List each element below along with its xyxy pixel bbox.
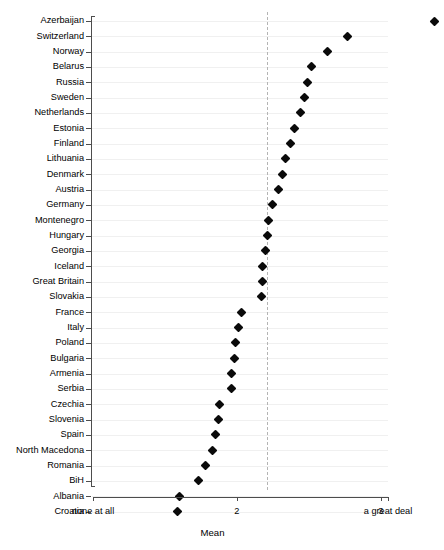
y-axis-label: Hungary (49, 231, 84, 240)
grid-line (92, 450, 388, 451)
x-axis-tick (388, 497, 389, 501)
y-axis-cap-bottom (91, 486, 95, 487)
y-axis-tick (86, 282, 91, 283)
grid-line (92, 466, 388, 467)
y-axis-label: Belarus (53, 62, 84, 71)
x-axis-label: 2 (177, 506, 297, 517)
y-axis-label: Slovenia (49, 415, 84, 424)
y-axis-label: Montenegro (35, 216, 84, 225)
y-axis-label: Sweden (51, 93, 84, 102)
y-axis-tick (86, 128, 91, 129)
y-axis-tick (86, 21, 91, 22)
y-axis-label: France (55, 308, 84, 317)
grid-line (92, 190, 388, 191)
y-axis-tick (86, 159, 91, 160)
y-axis-label: Albania (53, 492, 84, 501)
y-axis-tick (86, 67, 91, 68)
y-axis-label: Germany (46, 200, 84, 209)
y-axis-tick (86, 236, 91, 237)
y-axis-label: Romania (47, 461, 84, 470)
grid-line (92, 174, 388, 175)
data-point (213, 415, 223, 425)
grid-line (92, 220, 388, 221)
y-axis-label: Denmark (47, 170, 84, 179)
y-axis-tick (86, 374, 91, 375)
data-point (323, 47, 333, 57)
data-point (261, 246, 271, 256)
data-point (302, 77, 312, 87)
y-axis-label: Lithuania (47, 154, 84, 163)
y-axis-label: North Macedona (16, 446, 84, 455)
y-axis-cap-top (91, 16, 95, 17)
grid-line (92, 144, 388, 145)
plot-area (92, 12, 388, 490)
data-point (262, 231, 272, 241)
y-axis-tick (86, 312, 91, 313)
y-axis-label: Slovakia (49, 292, 84, 301)
grid-line (92, 236, 388, 237)
data-point (285, 139, 295, 149)
y-axis-label: Poland (55, 338, 84, 347)
y-axis-tick (86, 343, 91, 344)
y-axis-label: Great Britain (32, 277, 84, 286)
y-axis-tick (86, 466, 91, 467)
y-axis-tick (86, 358, 91, 359)
y-axis-label: Netherlands (34, 108, 84, 117)
data-point (268, 200, 278, 210)
y-axis-tick (86, 52, 91, 53)
y-axis-label: Czechia (51, 400, 84, 409)
data-point (300, 93, 310, 103)
y-axis-label: Switzerland (37, 32, 85, 41)
y-axis-tick (86, 389, 91, 390)
y-axis-label: BiH (69, 476, 84, 485)
y-axis-label: Russia (56, 78, 84, 87)
x-axis-title: Mean (0, 527, 425, 538)
data-point (200, 461, 210, 471)
y-axis-line (91, 16, 92, 486)
data-point (229, 353, 239, 363)
grid-line (92, 67, 388, 68)
data-point (278, 169, 288, 179)
grid-line (92, 21, 388, 22)
data-point (193, 476, 203, 486)
y-axis-tick (86, 496, 91, 497)
y-axis-tick (86, 420, 91, 421)
y-axis-tick (86, 251, 91, 252)
y-axis-label: Bulgaria (50, 354, 84, 363)
grid-line (92, 98, 388, 99)
grid-line (92, 266, 388, 267)
y-axis-tick (86, 266, 91, 267)
y-axis-label: Finland (54, 139, 84, 148)
y-axis-tick (86, 36, 91, 37)
y-axis-tick (86, 113, 91, 114)
y-axis-tick (86, 328, 91, 329)
y-axis-tick (86, 297, 91, 298)
grid-line (92, 251, 388, 252)
y-axis-tick (86, 205, 91, 206)
y-axis-label: Italy (67, 323, 84, 332)
grid-line (92, 297, 388, 298)
y-axis-label: Armenia (50, 369, 84, 378)
y-axis-tick (86, 174, 91, 175)
y-axis-tick (86, 98, 91, 99)
data-point (236, 307, 246, 317)
data-point (295, 108, 305, 118)
grid-line (92, 128, 388, 129)
data-point (307, 62, 317, 72)
data-point (210, 430, 220, 440)
y-axis-label: Serbia (57, 384, 84, 393)
grid-line (92, 481, 388, 482)
y-axis-label: Austria (55, 185, 84, 194)
y-axis-tick (86, 144, 91, 145)
data-point (343, 31, 353, 41)
y-axis-tick (86, 220, 91, 221)
grid-line (92, 374, 388, 375)
x-axis-label: a great deal (328, 506, 444, 517)
y-axis-label: Estonia (53, 124, 84, 133)
y-axis-label: Iceland (54, 262, 84, 271)
data-point (231, 338, 241, 348)
y-axis-label: Georgia (51, 246, 84, 255)
y-axis-tick (86, 404, 91, 405)
data-point (226, 384, 236, 394)
